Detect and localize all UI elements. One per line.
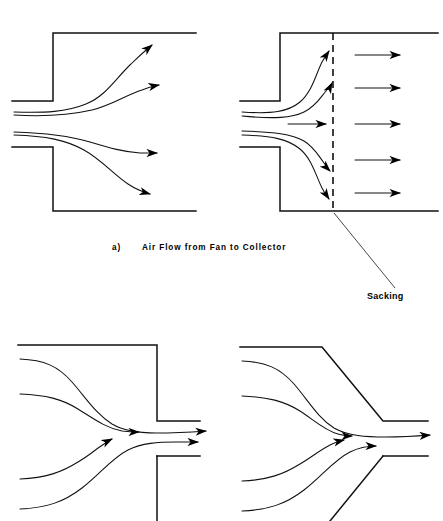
figure-background	[0, 0, 443, 521]
sacking-label: Sacking	[367, 291, 404, 301]
figure-caption-body: Air Flow from Fan to Collector	[142, 243, 286, 252]
air-flow-figure: a) Air Flow from Fan to Collector Sackin…	[0, 0, 443, 521]
figure-caption-label: a)	[112, 243, 121, 252]
